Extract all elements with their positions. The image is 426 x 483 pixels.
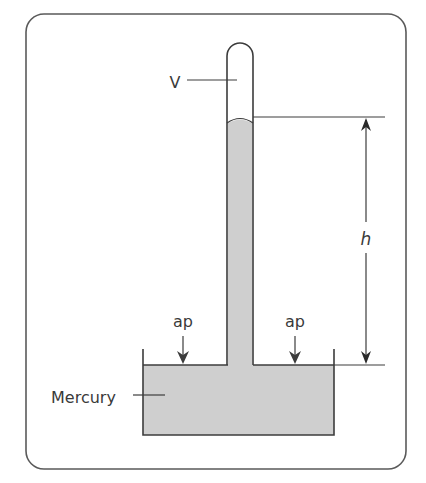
vacuum-label: V xyxy=(170,73,181,92)
mercury-label: Mercury xyxy=(51,388,116,407)
height-label: h xyxy=(361,229,372,249)
ap-label-left: ap xyxy=(173,312,193,331)
ap-label-right: ap xyxy=(285,312,305,331)
barometer-diagram: h V ap ap Mercury xyxy=(0,0,426,483)
